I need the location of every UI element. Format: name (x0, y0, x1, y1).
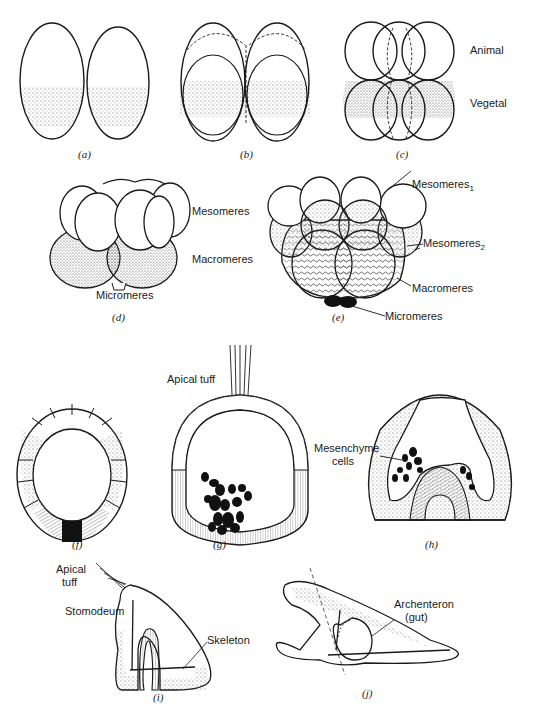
caption-f: (f) (72, 538, 82, 550)
label-i-tuff: tuff (62, 576, 77, 588)
label-e-mesomeres1: Mesomeres1 (412, 178, 474, 193)
caption-c: (c) (396, 148, 408, 160)
caption-i: (i) (153, 691, 163, 703)
label-e-mesomeres2: Mesomeres2 (423, 237, 485, 252)
panel-f-blastula (17, 404, 127, 542)
caption-h: (h) (425, 538, 438, 550)
label-j-gut: (gut) (405, 611, 428, 623)
label-i-stomodeum: Stomodeum (65, 605, 124, 617)
caption-d: (d) (112, 311, 125, 323)
label-e-macromeres: Macromeres (412, 282, 473, 294)
label-g-apical-tuff: Apical tuff (167, 373, 215, 385)
label-d-mesomeres: Mesomeres (192, 205, 249, 217)
panel-c-eight-cell (343, 22, 455, 140)
caption-e: (e) (332, 311, 344, 323)
label-i-skeleton: Skeleton (207, 634, 250, 646)
caption-j: (j) (362, 687, 372, 699)
label-j-archenteron: Archenteron (394, 598, 454, 610)
panel-a-two-cell (18, 23, 154, 139)
label-i-apical: Apical (56, 563, 86, 575)
caption-a: (a) (78, 148, 91, 160)
label-animal: Animal (470, 44, 504, 56)
panel-e-sixty-four-cell (268, 171, 426, 316)
panel-d-sixteen-cell (50, 179, 190, 290)
panel-j-pluteus-larva (276, 568, 458, 675)
label-h-mesenchyme: Mesenchyme (314, 442, 379, 454)
panel-i-prism-larva (96, 563, 211, 690)
caption-g: (g) (213, 538, 226, 550)
caption-b: (b) (240, 148, 253, 160)
panel-b-four-cell (180, 23, 310, 141)
label-d-macromeres: Macromeres (192, 253, 253, 265)
label-h-cells: cells (332, 455, 354, 467)
label-vegetal: Vegetal (470, 97, 507, 109)
label-d-micromeres: Micromeres (96, 289, 153, 301)
panel-h-gastrula (369, 395, 512, 520)
label-e-micromeres: Micromeres (385, 310, 442, 322)
